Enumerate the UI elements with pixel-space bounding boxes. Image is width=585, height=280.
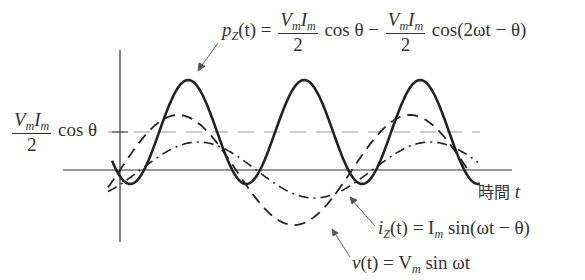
power-term1-fraction: VmIm 2 xyxy=(278,10,317,54)
voltage-rhs-sub: m xyxy=(412,262,421,276)
current-leader xyxy=(352,200,375,226)
current-formula-label: iZ(t) = Im sin(ωt − θ) xyxy=(378,218,530,240)
term1-den: 2 xyxy=(278,34,317,54)
current-rhs-sub: m xyxy=(434,227,443,241)
voltage-formula-label: v(t) = Vm sin ωt xyxy=(352,253,470,275)
term1-i-sub: m xyxy=(307,19,316,33)
power-formula-label: pZ(t) = VmIm 2 cos θ − VmIm 2 cos(2ωt − … xyxy=(222,10,526,54)
power-arrowhead xyxy=(198,63,205,71)
power-leader xyxy=(200,43,218,68)
power-term1-fn: cos θ xyxy=(324,19,363,40)
term2-den: 2 xyxy=(386,34,425,54)
current-subscript: Z xyxy=(383,227,390,241)
power-symbol: p xyxy=(222,19,232,40)
term1-v-sub: m xyxy=(292,19,301,33)
term2-v-sub: m xyxy=(399,19,408,33)
avg-v: V xyxy=(14,109,26,130)
power-term2-fraction: VmIm 2 xyxy=(386,10,425,54)
average-fraction: VmIm 2 xyxy=(12,110,51,154)
voltage-leader xyxy=(334,232,350,257)
average-fn: cos θ xyxy=(58,119,97,140)
current-arrowhead xyxy=(350,197,357,204)
avg-v-sub: m xyxy=(26,119,35,133)
voltage-rhs-post: sin ωt xyxy=(421,252,470,273)
voltage-rhs-pre: (t) = V xyxy=(360,252,412,273)
current-rhs-post: sin(ωt − θ) xyxy=(443,217,530,238)
time-label-text: 時間 xyxy=(478,183,510,202)
power-term2-fn: cos(2ωt − θ) xyxy=(432,19,527,40)
term1-v: V xyxy=(280,9,292,30)
avg-i-sub: m xyxy=(41,119,50,133)
average-level-label: VmIm 2 cos θ xyxy=(10,110,97,154)
current-rhs-pre: (t) = I xyxy=(390,217,434,238)
term2-v: V xyxy=(388,9,400,30)
term2-i-sub: m xyxy=(414,19,423,33)
power-arg: (t) = xyxy=(238,19,271,40)
voltage-arrowhead xyxy=(332,229,338,236)
time-variable: t xyxy=(515,181,520,202)
power-op: − xyxy=(368,19,379,40)
avg-den: 2 xyxy=(12,134,51,154)
time-axis-label: 時間 t xyxy=(478,182,520,201)
